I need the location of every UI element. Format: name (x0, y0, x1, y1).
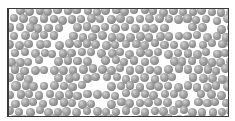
sphere (50, 15, 58, 23)
sphere (228, 89, 229, 97)
sphere (64, 56, 72, 64)
sphere (24, 58, 32, 66)
sphere (165, 32, 173, 40)
sphere (183, 32, 191, 40)
sphere (199, 74, 208, 83)
sphere (7, 23, 14, 32)
sphere (194, 98, 203, 107)
sphere (136, 115, 145, 117)
sphere (140, 73, 149, 82)
sphere (116, 48, 124, 56)
sphere (11, 49, 19, 57)
sphere (98, 31, 107, 40)
sphere (213, 116, 222, 117)
sphere (221, 64, 229, 73)
sphere (113, 73, 122, 82)
sphere (49, 114, 58, 117)
sphere (107, 15, 116, 24)
sphere (117, 98, 125, 106)
sphere (60, 82, 68, 90)
sphere (221, 116, 229, 117)
sphere (122, 89, 130, 97)
sphere (16, 73, 24, 81)
sphere (40, 66, 48, 74)
sphere (39, 116, 48, 117)
sphere (72, 8, 81, 14)
sphere (218, 40, 226, 48)
sphere (19, 14, 28, 23)
sphere (188, 57, 196, 65)
sphere (189, 40, 197, 48)
sphere (40, 14, 49, 23)
sphere (111, 24, 120, 33)
sphere (130, 8, 138, 14)
sphere (86, 116, 95, 117)
sphere (49, 98, 57, 106)
sphere (36, 106, 44, 114)
sphere (198, 23, 207, 32)
sphere (164, 82, 172, 90)
sphere (213, 17, 221, 25)
sphere (155, 14, 163, 22)
sphere (136, 15, 144, 23)
sphere (208, 8, 216, 16)
sphere (211, 98, 219, 106)
sphere (40, 82, 48, 90)
sphere (164, 114, 173, 117)
sphere (72, 73, 80, 81)
sphere (40, 31, 48, 39)
sphere (130, 56, 139, 65)
sphere (169, 8, 178, 15)
sphere (43, 40, 51, 48)
sphere (174, 15, 183, 24)
sphere (203, 99, 211, 107)
sphere (154, 98, 162, 106)
sphere (35, 56, 43, 64)
sphere (170, 90, 178, 98)
sphere (198, 108, 206, 116)
sphere (17, 90, 25, 98)
sphere (7, 106, 14, 115)
sphere (91, 73, 100, 82)
sphere (112, 56, 120, 64)
sphere (87, 48, 95, 56)
sphere (72, 108, 81, 117)
sphere (98, 115, 107, 117)
sphere (29, 116, 38, 117)
sphere (78, 48, 86, 56)
sphere (10, 115, 18, 117)
sphere (10, 14, 18, 22)
sphere (50, 81, 59, 90)
sphere (197, 8, 206, 15)
sphere (126, 116, 135, 117)
sphere (31, 32, 39, 40)
sphere (83, 39, 92, 48)
sphere (68, 15, 76, 23)
sphere (131, 89, 140, 98)
sphere (79, 65, 88, 74)
sphere (107, 82, 116, 91)
sphere (31, 66, 40, 75)
sphere (60, 114, 68, 117)
sphere (126, 66, 135, 75)
sphere (101, 8, 110, 15)
sphere (208, 39, 216, 47)
sphere (101, 56, 109, 64)
sphere (168, 73, 176, 81)
sphere (64, 8, 72, 15)
sphere (223, 14, 229, 23)
sphere (116, 64, 124, 72)
sphere (7, 40, 14, 49)
sphere (189, 73, 197, 81)
sphere (21, 48, 29, 56)
sphere (218, 108, 227, 117)
sphere (102, 91, 110, 99)
sphere (226, 107, 229, 115)
sphere (136, 48, 145, 57)
sphere (160, 41, 169, 50)
sphere (175, 115, 183, 117)
sphere (212, 81, 220, 89)
sphere (165, 15, 174, 24)
sphere (149, 24, 158, 33)
sphere (115, 116, 124, 117)
